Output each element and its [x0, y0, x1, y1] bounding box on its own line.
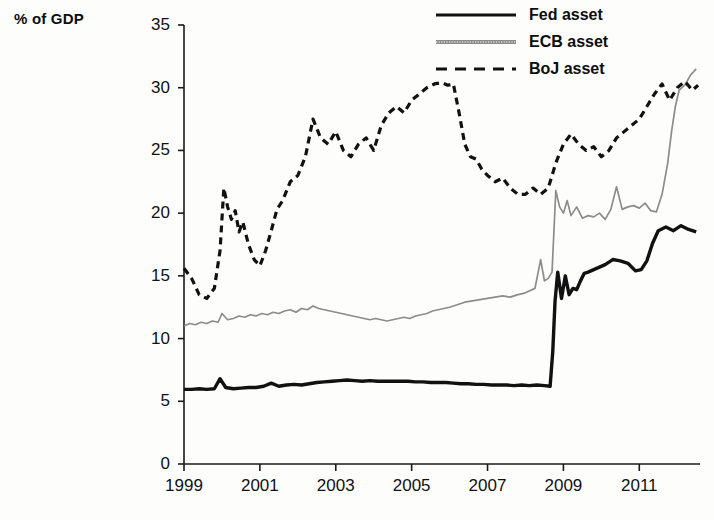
x-tick-label: 2007 [453, 476, 523, 496]
y-tick-label: 5 [128, 391, 170, 411]
x-tick-label: 2009 [528, 476, 598, 496]
x-tick-label: 2005 [377, 476, 447, 496]
chart-figure: % of GDP Fed asset ECB asset BoJ asset 0… [0, 0, 714, 520]
legend-label-fed: Fed asset [529, 6, 603, 24]
y-tick-label: 10 [128, 329, 170, 349]
legend-item-fed: Fed asset [435, 6, 608, 24]
y-tick-label: 35 [128, 15, 170, 35]
legend-item-boj: BoJ asset [435, 60, 608, 78]
series-line-boj-asset [184, 81, 698, 298]
series-line-ecb-asset [184, 69, 696, 326]
legend-label-boj: BoJ asset [529, 60, 605, 78]
plot-area [0, 0, 714, 520]
chart-legend: Fed asset ECB asset BoJ asset [435, 6, 608, 78]
x-tick-label: 2011 [604, 476, 674, 496]
y-tick-label: 25 [128, 140, 170, 160]
legend-swatch-dashed-icon [435, 63, 517, 75]
y-tick-label: 20 [128, 203, 170, 223]
legend-swatch-gray-icon [435, 36, 517, 48]
y-tick-label: 30 [128, 78, 170, 98]
y-tick-label: 15 [128, 266, 170, 286]
x-tick-label: 1999 [149, 476, 219, 496]
y-tick-label: 0 [128, 454, 170, 474]
x-tick-label: 2001 [225, 476, 295, 496]
x-tick-label: 2003 [301, 476, 371, 496]
legend-item-ecb: ECB asset [435, 33, 608, 51]
legend-label-ecb: ECB asset [529, 33, 608, 51]
legend-swatch-solid-icon [435, 9, 517, 21]
y-axis-title: % of GDP [14, 10, 84, 27]
series-line-fed-asset [184, 226, 696, 390]
